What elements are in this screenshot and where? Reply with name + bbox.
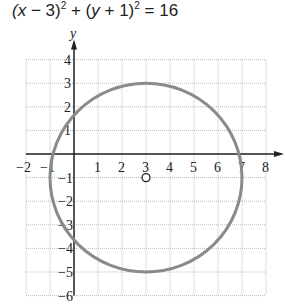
y-tick-label: 2: [64, 100, 71, 115]
y-tick-label: 3: [64, 76, 71, 91]
center-point: [142, 174, 150, 182]
y-tick-label: −4: [58, 241, 73, 256]
y-axis-label: y: [68, 26, 77, 41]
y-tick-label: −2: [58, 194, 73, 209]
y-tick-label: −1: [58, 171, 73, 186]
x-tick-label: 8: [262, 160, 269, 175]
x-tick-label: 6: [214, 160, 221, 175]
y-axis-arrow-icon: [71, 40, 77, 50]
x-tick-label: 2: [118, 160, 125, 175]
y-tick-label: 4: [64, 53, 71, 68]
y-tick-label: −5: [58, 265, 73, 280]
x-tick-label: 5: [190, 160, 197, 175]
x-tick-label: 1: [94, 160, 101, 175]
x-tick-label: −2: [16, 160, 31, 175]
x-tick-label: 4: [166, 160, 173, 175]
circle-graph: y−2−1123456784321−1−2−3−4−5−6: [0, 0, 285, 304]
x-axis-arrow-icon: [274, 151, 284, 157]
y-tick-label: −6: [58, 289, 73, 304]
x-tick-label: 3: [142, 160, 149, 175]
